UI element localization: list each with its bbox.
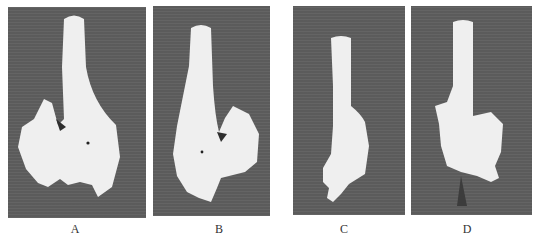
photo-panel-b — [153, 6, 270, 216]
photo-panel-c — [293, 6, 405, 215]
photo-panel-d — [411, 6, 532, 215]
bone-specimen-image — [8, 7, 146, 218]
panel-label-b: B — [204, 222, 234, 237]
panel-label-a: A — [60, 222, 90, 237]
panel-label-d: D — [452, 222, 482, 237]
bone-specimen-image — [293, 6, 405, 215]
bone-specimen-image — [411, 6, 532, 215]
bone-specimen-image — [153, 6, 270, 216]
panel-label-c: C — [329, 222, 359, 237]
photo-panel-a — [8, 7, 146, 218]
